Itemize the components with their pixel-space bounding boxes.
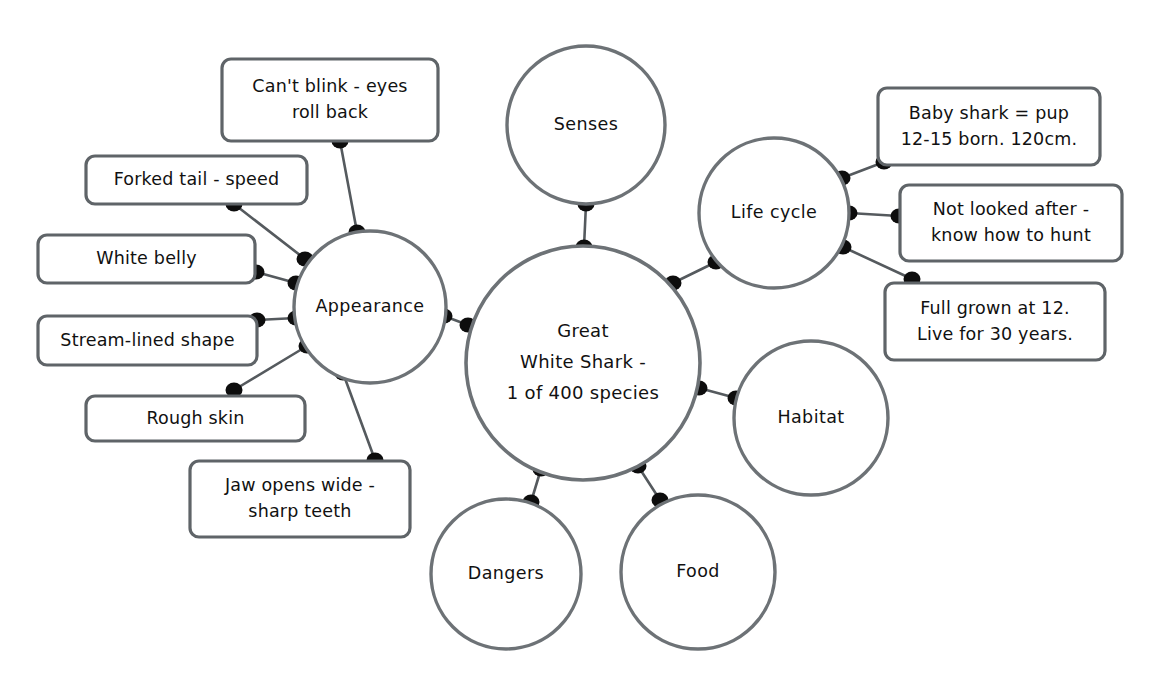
connector-line [343, 373, 375, 460]
connector-line [340, 141, 357, 232]
node-label: White belly [96, 248, 197, 268]
note-box-forked-tail[interactable]: Forked tail - speed [86, 156, 307, 204]
node-label: Stream-lined shape [60, 330, 234, 350]
node-label: Habitat [777, 407, 844, 427]
note-box-shape[interactable] [900, 185, 1122, 261]
branch-node-life-cycle[interactable]: Life cycle [699, 138, 849, 288]
node-label-line: Baby shark = pup [909, 103, 1069, 123]
node-label-line: White belly [96, 248, 197, 268]
node-label: Dangers [468, 563, 544, 583]
node-label-line: Forked tail - speed [114, 169, 280, 189]
node-label-line: Habitat [777, 407, 844, 427]
branch-node-senses[interactable]: Senses [507, 46, 665, 204]
note-box-white-belly[interactable]: White belly [38, 235, 255, 283]
node-label: Food [676, 561, 720, 581]
node-label-line: Can't blink - eyes [252, 76, 407, 96]
node-label-line: Food [676, 561, 720, 581]
node-label: Senses [554, 114, 618, 134]
mind-map-diagram: Can't blink - eyesroll backForked tail -… [0, 0, 1155, 693]
node-label-line: Appearance [315, 296, 424, 316]
node-label: Life cycle [731, 202, 817, 222]
note-box-baby-shark-pup[interactable]: Baby shark = pup12-15 born. 120cm. [878, 88, 1100, 165]
mind-map-canvas: Can't blink - eyesroll backForked tail -… [0, 0, 1155, 693]
node-label-line: sharp teeth [248, 501, 351, 521]
node-label-line: Jaw opens wide - [224, 475, 375, 495]
branch-node-appearance[interactable]: Appearance [294, 231, 446, 383]
note-box-shape[interactable] [190, 461, 410, 537]
node-label-line: White Shark - [520, 351, 646, 372]
node-label: Forked tail - speed [114, 169, 280, 189]
node-label: Appearance [315, 296, 424, 316]
note-box-rough-skin[interactable]: Rough skin [86, 396, 305, 441]
connector-appearance-to-cant-blink [332, 134, 366, 240]
central-node-great-white-shark[interactable]: GreatWhite Shark -1 of 400 species [466, 246, 700, 480]
note-box-shape[interactable] [885, 283, 1105, 360]
node-label-line: Great [557, 320, 609, 341]
node-label-line: 1 of 400 species [507, 382, 659, 403]
node-label-line: Stream-lined shape [60, 330, 234, 350]
node-label-line: Full grown at 12. [920, 298, 1069, 318]
central-node-layer: GreatWhite Shark -1 of 400 species [466, 246, 700, 480]
node-label-line: Live for 30 years. [917, 324, 1073, 344]
note-box-jaw-opens-wide[interactable]: Jaw opens wide -sharp teeth [190, 461, 410, 537]
node-label-line: Rough skin [146, 408, 244, 428]
branch-node-dangers[interactable]: Dangers [431, 499, 581, 649]
note-box-full-grown-at-12[interactable]: Full grown at 12.Live for 30 years. [885, 283, 1105, 360]
note-box-not-looked-after[interactable]: Not looked after -know how to hunt [900, 185, 1122, 261]
node-label-line: know how to hunt [931, 225, 1091, 245]
note-box-shape[interactable] [222, 59, 438, 141]
note-box-shape[interactable] [878, 88, 1100, 165]
node-label: Rough skin [146, 408, 244, 428]
branch-node-food[interactable]: Food [621, 495, 775, 649]
node-label-line: roll back [292, 102, 369, 122]
node-label-line: Life cycle [731, 202, 817, 222]
node-label-line: Not looked after - [933, 199, 1089, 219]
node-label-line: 12-15 born. 120cm. [901, 129, 1078, 149]
note-box-cant-blink[interactable]: Can't blink - eyesroll back [222, 59, 438, 141]
node-label-line: Dangers [468, 563, 544, 583]
branch-node-habitat[interactable]: Habitat [734, 341, 888, 495]
note-box-stream-lined-shape[interactable]: Stream-lined shape [38, 316, 257, 365]
node-label-line: Senses [554, 114, 618, 134]
